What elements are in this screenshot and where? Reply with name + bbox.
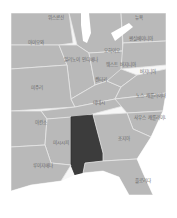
map-frame: 위스콘신 뉴욕 아이오와 펜실베이니아 일리노이 인디애나 오하이오 미주리 웨… <box>11 13 166 195</box>
label-pennsylvania: 펜실베이니아 <box>129 37 153 42</box>
label-missouri: 미주리 <box>31 86 43 91</box>
label-westvirginia: 웨스트 버지니아 <box>106 63 135 68</box>
label-kentucky: 켄터키 <box>95 78 107 83</box>
state-arkansas[interactable] <box>11 111 47 147</box>
label-illinois: 일리노이 인디애나 <box>64 58 97 63</box>
label-mississippi: 미시시피 <box>53 141 69 146</box>
label-southcarolina: 사우스 캐롤라이나 <box>134 116 166 121</box>
label-florida: 플로리다 <box>135 179 151 184</box>
label-louisiana: 루이지애나 <box>33 164 53 169</box>
label-wisconsin: 위스콘신 <box>48 16 64 21</box>
label-newyork: 뉴욕 <box>135 16 143 21</box>
label-ohio: 오하이오 <box>104 49 120 54</box>
label-virginia: 버지니아 <box>140 70 156 75</box>
label-northcarolina: 노스 캐롤라이나 <box>136 94 165 99</box>
label-arkansas: 아칸소 <box>35 121 47 126</box>
state-missouri[interactable] <box>11 65 75 111</box>
label-iowa: 아이오와 <box>28 41 44 46</box>
label-georgia: 조지아 <box>118 137 130 142</box>
label-tennessee: 테네시 <box>93 101 105 106</box>
